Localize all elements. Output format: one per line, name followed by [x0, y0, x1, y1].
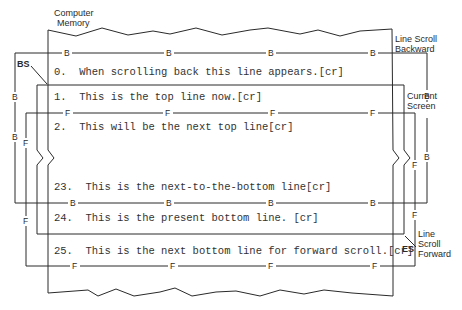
- label-computer-memory-2: Memory: [57, 18, 90, 28]
- f-marker: F: [65, 108, 70, 118]
- scroll-diagram: B B B B B B B B B B B B F F F F F F F F …: [0, 0, 462, 310]
- b-marker: B: [370, 48, 376, 58]
- f-marker: F: [412, 160, 417, 170]
- b-marker: B: [166, 48, 172, 58]
- memory-line-0: 0. When scrolling back this line appears…: [54, 66, 344, 78]
- screen-line-24: 24. This is the present bottom line. [cr…: [54, 212, 319, 224]
- b-marker: B: [424, 152, 430, 162]
- label-current-screen-1: Current: [407, 91, 438, 101]
- screen-line-2: 2. This will be the next top line[cr]: [54, 121, 293, 133]
- b-marker: B: [268, 198, 274, 208]
- label-line-scroll-forward-3: Forward: [418, 249, 451, 259]
- f-marker: F: [23, 138, 28, 148]
- label-line-scroll-forward-1: Line: [418, 229, 435, 239]
- f-marker: F: [268, 261, 273, 271]
- b-marker: B: [12, 132, 18, 142]
- f-marker: F: [72, 261, 77, 271]
- b-marker: B: [64, 48, 70, 58]
- label-computer-memory-1: Computer: [54, 8, 94, 18]
- b-marker: B: [370, 198, 376, 208]
- f-marker: F: [412, 210, 417, 220]
- f-marker: F: [165, 108, 170, 118]
- label-line-scroll-backward-2: Backward: [395, 44, 435, 54]
- label-line-scroll-forward-2: Scroll: [418, 239, 441, 249]
- label-current-screen-2: Screen: [407, 101, 436, 111]
- f-marker: F: [370, 108, 375, 118]
- label-line-scroll-backward-1: Line Scroll: [395, 34, 437, 44]
- b-marker: B: [70, 198, 76, 208]
- screen-line-23: 23. This is the next-to-the-bottom line[…: [54, 181, 331, 193]
- bs-pointer-arrow: [31, 66, 47, 84]
- b-marker: B: [12, 92, 18, 102]
- memory-line-25: 25. This is the next bottom line for for…: [54, 245, 413, 257]
- screen-line-1: 1. This is the top line now.[cr]: [54, 91, 262, 103]
- f-marker: F: [372, 261, 377, 271]
- f-marker: F: [170, 261, 175, 271]
- f-marker: F: [270, 108, 275, 118]
- b-marker: B: [166, 198, 172, 208]
- b-marker: B: [268, 48, 274, 58]
- f-marker: F: [23, 216, 28, 226]
- label-bs: BS: [17, 59, 30, 69]
